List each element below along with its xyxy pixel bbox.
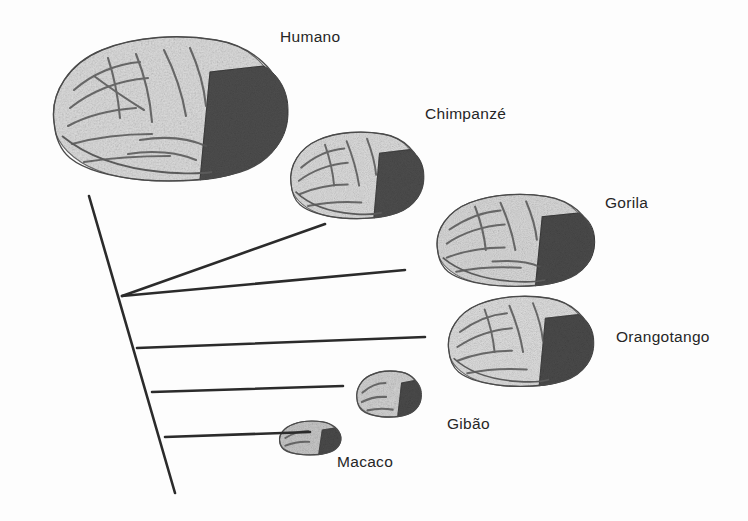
- phylogenetic-tree: [0, 0, 748, 521]
- tree-branch-macaco: [165, 432, 310, 437]
- tree-branch-orangotango: [137, 337, 425, 348]
- label-macaco: Macaco: [337, 453, 393, 471]
- brain-evolution-figure: Humano Chimpanzé Gorila Orangotango Gibã…: [0, 0, 748, 521]
- tree-branch-gibao: [152, 386, 343, 392]
- label-chimpanze: Chimpanzé: [425, 105, 506, 123]
- label-gorila: Gorila: [605, 194, 648, 212]
- label-humano: Humano: [280, 28, 340, 46]
- label-orangotango: Orangotango: [616, 328, 710, 346]
- tree-trunk: [89, 196, 175, 493]
- tree-branch-gorila: [122, 270, 405, 296]
- tree-branch-chimpanze: [122, 224, 325, 296]
- label-gibao: Gibão: [447, 415, 490, 433]
